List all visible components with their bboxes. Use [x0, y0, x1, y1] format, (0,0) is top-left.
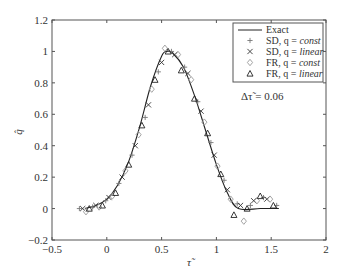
y-tick-label: 0.6: [34, 108, 48, 120]
legend-label: SD, q = const: [266, 35, 321, 46]
legend-label: FR, q = linear: [266, 68, 323, 79]
y-tick-label: −0.2: [28, 234, 48, 246]
x-tick-label: 1.5: [264, 243, 278, 255]
legend-label: SD, q = linear: [266, 46, 323, 57]
x-tick-label: 0.5: [155, 243, 169, 255]
y-tick-label: 0: [43, 203, 49, 215]
x-tick-label: 0: [104, 243, 110, 255]
x-axis-label: τ̃: [187, 256, 196, 268]
y-axis-label: q̂: [12, 129, 24, 135]
delta-tau-annotation: Δτ̃ = 0.06: [241, 90, 284, 102]
y-tick-label: 0.2: [34, 171, 48, 183]
y-tick-label: 0.8: [34, 77, 48, 89]
y-tick-label: 1.2: [34, 14, 48, 26]
chart: −0.500.511.52−0.200.20.40.60.811.2 τ̃ q̂…: [0, 0, 341, 279]
y-tick-label: 1: [43, 45, 49, 57]
y-tick-label: 0.4: [34, 140, 48, 152]
legend-label: FR, q = const: [266, 57, 320, 68]
x-tick-label: 1: [214, 243, 220, 255]
legend: ExactSD, q = constSD, q = linearFR, q = …: [233, 23, 323, 82]
legend-label: Exact: [266, 24, 289, 35]
x-tick-label: 2: [323, 243, 329, 255]
